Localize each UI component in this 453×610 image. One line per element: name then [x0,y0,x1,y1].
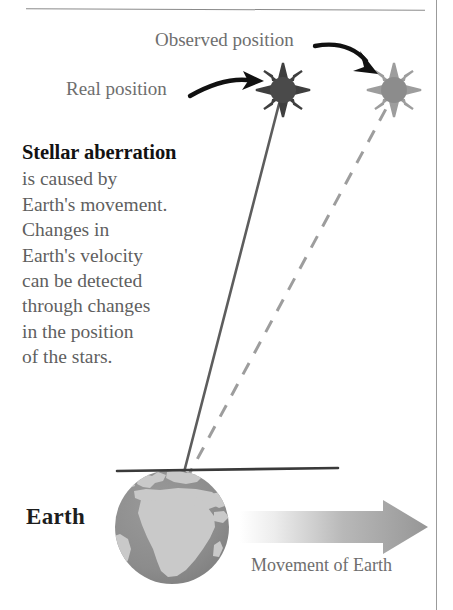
earth-motion-arrow [240,500,428,554]
label-earth: Earth [26,504,85,530]
observed-position-pointer-arrow [315,45,378,74]
description-line: can be detected [22,268,222,293]
description-line: is caused by [22,166,222,191]
label-real-position: Real position [66,78,167,100]
description-line: through changes [22,293,222,318]
real-position-star [256,63,310,117]
description-line: of the stars. [22,344,222,369]
label-movement-of-earth: Movement of Earth [251,555,392,576]
description-line: Changes in [22,217,222,242]
earth-globe [102,470,229,584]
description-line: Earth's velocity [22,243,222,268]
horizon-line [117,468,338,471]
label-observed-position: Observed position [155,29,294,51]
description-headline: Stellar aberration [22,140,222,165]
description-text-block: Stellar aberration is caused by Earth's … [22,140,222,370]
description-line: in the position [22,319,222,344]
diagram-page: Observed position Real position Earth Mo… [0,0,453,610]
description-line: Earth's movement. [22,192,222,217]
real-position-pointer-arrow [190,71,264,96]
